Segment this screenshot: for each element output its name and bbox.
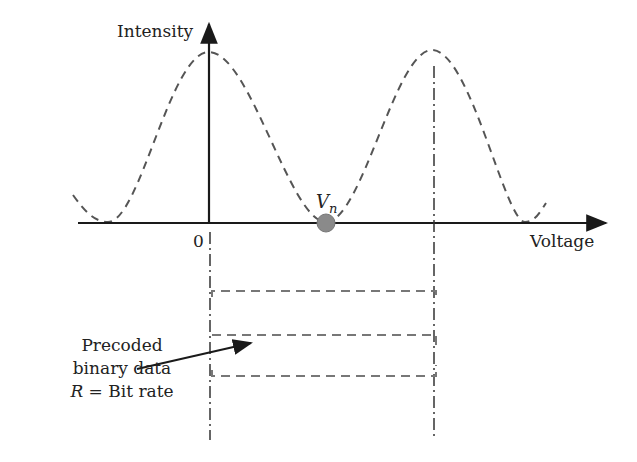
annotation-line-2: binary data (73, 358, 172, 378)
annotation-line-1: Precoded (81, 335, 162, 355)
binary-data-levels (212, 291, 436, 376)
annotation-line-3: R = Bit rate (69, 381, 173, 401)
y-axis-label: Intensity (117, 21, 193, 41)
transfer-curve (73, 50, 546, 222)
bias-point-dot (317, 214, 335, 232)
origin-label: 0 (193, 231, 204, 251)
x-axis-label: Voltage (529, 231, 594, 251)
modulator-transfer-diagram: Intensity Voltage 0 Vn Precoded binary d… (0, 0, 637, 462)
bias-point-label: Vn (316, 191, 337, 216)
